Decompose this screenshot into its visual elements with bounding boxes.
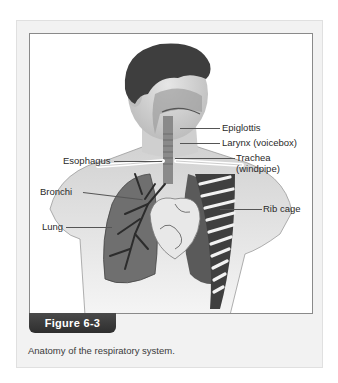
larynx-leader — [180, 143, 220, 144]
label-larynx: Larynx (voicebox) — [222, 137, 297, 148]
figure-number-tab: Figure 6-3 — [29, 313, 116, 333]
label-epiglottis: Epiglottis — [222, 122, 261, 133]
rib-cage-leader — [220, 209, 262, 210]
trachea-leader — [175, 158, 235, 159]
figure-frame: Epiglottis Larynx (voicebox) Trachea (wi… — [29, 33, 313, 314]
lung-leader — [66, 227, 112, 228]
esophagus-leader — [114, 161, 162, 162]
respiratory-illustration — [30, 34, 313, 314]
label-esophagus: Esophagus — [63, 155, 111, 166]
label-bronchi: Bronchi — [40, 186, 72, 197]
label-trachea-line1: Trachea — [236, 152, 271, 163]
label-trachea: Trachea (windpipe) — [236, 152, 280, 174]
epiglottis-leader — [180, 128, 220, 129]
label-rib-cage: Rib cage — [263, 203, 301, 214]
label-trachea-line2: (windpipe) — [236, 163, 280, 174]
label-lung: Lung — [42, 221, 63, 232]
figure-caption: Anatomy of the respiratory system. — [28, 345, 175, 356]
